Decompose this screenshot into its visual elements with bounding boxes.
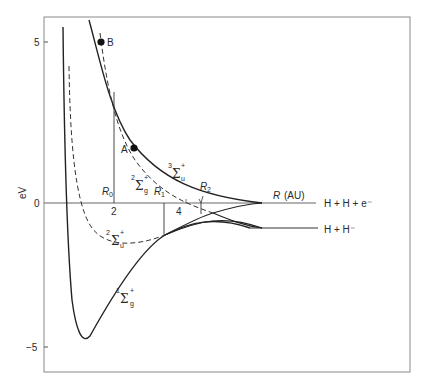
state-label-1sigma-g: 1 Σ + g: [116, 287, 134, 308]
state-label-2sigma-u: 2 Σ + u: [106, 229, 124, 249]
curve-2sigma-u: [69, 66, 165, 243]
r1-sub: 1: [161, 191, 165, 198]
svg-text:Σ: Σ: [135, 179, 143, 193]
r0-sub: 0: [109, 191, 113, 198]
state-label-3sigma-u: 3 Σ + u: [168, 162, 185, 182]
y-tick-label-0: 0: [34, 198, 40, 209]
svg-text:g: g: [144, 187, 148, 195]
svg-text:2: 2: [106, 229, 110, 236]
svg-text:u: u: [181, 175, 185, 182]
svg-text:g: g: [130, 300, 134, 308]
curve-1sigma-g: [63, 27, 250, 339]
svg-text:+: +: [130, 287, 134, 294]
x-tick-label-4: 4: [176, 206, 182, 217]
asymptote-label-top: H + H + e⁻: [324, 198, 372, 209]
x-axis-label-units: (AU): [284, 190, 305, 201]
point-b-label: B: [107, 37, 114, 48]
svg-text:+: +: [144, 174, 148, 181]
svg-text:+: +: [181, 162, 185, 169]
y-tick-label-5: 5: [34, 37, 40, 48]
point-b: [97, 38, 104, 45]
r2-arrow-icon: [199, 196, 203, 203]
point-a: [130, 144, 137, 151]
potential-energy-diagram: 5 0 −5 eV 2 4 R (AU) H + H + e⁻ H + H⁻ B…: [0, 0, 428, 391]
asymptote-label-bottom: H + H⁻: [324, 224, 355, 235]
svg-text:Σ: Σ: [111, 234, 119, 248]
svg-text:Σ: Σ: [120, 292, 128, 306]
svg-text:Σ: Σ: [172, 167, 180, 181]
r2-sub: 2: [207, 186, 211, 193]
svg-text:u: u: [120, 242, 124, 249]
point-a-label: A: [121, 144, 128, 155]
x-axis-label-r: R: [273, 190, 280, 201]
plot-frame: [44, 17, 410, 372]
svg-text:+: +: [120, 229, 124, 236]
y-tick-label-m5: −5: [26, 342, 38, 353]
state-label-2sigma-g: 2 Σ + g: [131, 174, 148, 195]
x-tick-label-2: 2: [111, 206, 117, 217]
y-axis-label: eV: [17, 186, 28, 199]
